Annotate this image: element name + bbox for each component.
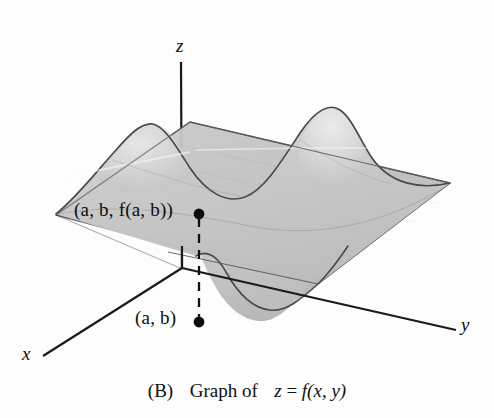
figure-container: z x y (a, b, f(a, b)) (a, b) (B) Graph o… <box>0 0 494 418</box>
caption-text: Graph of <box>190 380 258 401</box>
upper-point-dot <box>194 209 205 220</box>
z-axis-label: z <box>176 36 183 55</box>
y-axis-label: y <box>461 315 469 334</box>
upper-point-label: (a, b, f(a, b)) <box>74 200 173 219</box>
right-peak-shading <box>298 108 372 183</box>
lower-point-dot <box>194 317 205 328</box>
caption-equation-lhs: z <box>274 380 281 401</box>
x-axis-label: x <box>22 344 30 363</box>
caption-equation-rhs: f(x, y) <box>302 380 346 401</box>
lower-point-label: (a, b) <box>135 308 176 327</box>
caption-part-label: (B) <box>148 380 173 401</box>
figure-caption: (B) Graph of z = f(x, y) <box>0 380 494 402</box>
caption-equation-equals: = <box>286 380 297 401</box>
